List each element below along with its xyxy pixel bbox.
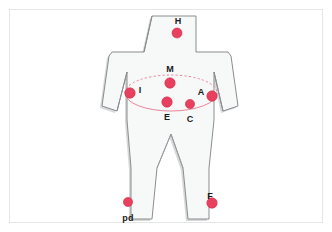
- marker-dot-i[interactable]: [125, 88, 135, 98]
- marker-dot-pd[interactable]: [123, 197, 132, 206]
- marker-dot-e[interactable]: [162, 97, 172, 107]
- marker-label-e: E: [164, 113, 170, 122]
- marker-label-c: C: [187, 115, 194, 124]
- marker-label-f: F: [207, 192, 213, 201]
- marker-label-pd: pd: [122, 214, 133, 223]
- marker-dot-m[interactable]: [165, 78, 175, 88]
- marker-dot-c[interactable]: [185, 99, 194, 108]
- marker-dot-h[interactable]: [172, 28, 182, 38]
- marker-label-a: A: [198, 88, 205, 97]
- marker-label-h: H: [175, 17, 182, 26]
- marker-label-m: M: [166, 65, 174, 74]
- diagram-canvas: HMIAECpdF: [0, 0, 332, 232]
- marker-label-i: I: [139, 86, 142, 95]
- marker-dot-a[interactable]: [207, 91, 217, 101]
